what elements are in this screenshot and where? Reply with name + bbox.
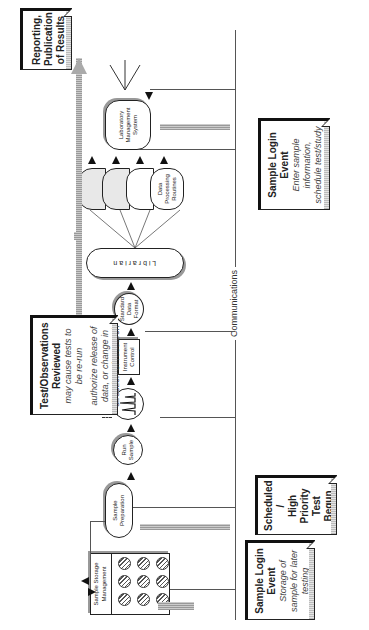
event-title-line: Test [311, 481, 323, 531]
processing-routine-1: Data Processing Routines [150, 168, 184, 210]
vial-icon [156, 557, 169, 570]
arrow-to-format-icon [127, 328, 135, 336]
vial-icon [156, 575, 169, 588]
event-title-line: / [275, 481, 287, 531]
arrow-bus-to-lims-icon [145, 92, 153, 100]
bus-drop-processing [130, 149, 235, 150]
event-title-line: Scheduled [263, 481, 275, 531]
librarian-label: L i b r a r i a n [114, 260, 157, 267]
arrow-down-storage-icon [88, 588, 96, 596]
arrow-to-lims-icon [160, 156, 168, 164]
output-arrows-icon [105, 55, 145, 95]
event-arrow-lims [160, 124, 230, 130]
instrument-control-label: Instrument Control [122, 340, 136, 374]
vial-icon [137, 593, 150, 606]
arrow-to-lims-icon [112, 156, 120, 164]
arrow-to-lims-icon [136, 156, 144, 164]
bus-drop-lims [150, 89, 235, 90]
sample-prep-node: Sample Preparation [105, 483, 133, 538]
sample-storage-label: Sample Storage Management [91, 554, 112, 614]
review-to-lims-grey [76, 58, 82, 318]
page-fold-icon [321, 118, 330, 127]
run-sample-node: Run Sample [113, 435, 143, 465]
bus-drop-prep [130, 507, 235, 508]
event-reporting: Reporting, Publication of Results [20, 8, 72, 70]
event-tests-reviewed: Test/Observations Reviewed may cause tes… [30, 315, 118, 415]
event-sample-login-storage: Sample Login Event Storage of sample for… [245, 540, 315, 620]
page-fold-icon [328, 475, 337, 484]
vial-icon [118, 593, 131, 606]
event-line: authorize release of data, or change in … [89, 323, 122, 409]
data-format-label: Standard Data Format [119, 294, 140, 324]
run-sample-label: Run Sample [121, 436, 135, 464]
processing-label: Data Processing Routines [157, 169, 178, 209]
vial-icon [118, 575, 131, 588]
event-arrow-storage [158, 602, 194, 610]
arrow-to-librarian-icon [127, 282, 135, 290]
sample-prep-label: Sample Preparation [112, 484, 126, 537]
data-format-node: Standard Data Format [114, 293, 144, 325]
event-arrow-prep [140, 524, 230, 530]
librarian-node: L i b r a r i a n [86, 248, 184, 278]
lims-node: Laboratory Management System [105, 100, 151, 150]
librarian-fan-lines [80, 208, 190, 248]
bus-drop-instrument [145, 331, 235, 332]
event-scheduled-high-priority: Scheduled / High Priority Test Begun [255, 475, 337, 535]
lims-label: Laboratory Management System [118, 101, 139, 149]
vial-icon [137, 575, 150, 588]
event-subtitle: Enter sample information, schedule test/… [291, 125, 324, 205]
grey-arrowhead-icon [71, 58, 87, 74]
prep-to-storage-line-h [90, 522, 91, 592]
arrow-prep-to-run-icon [127, 472, 135, 480]
arrow-storage-to-prep-icon [81, 577, 89, 585]
bus-drop-run [160, 417, 235, 418]
arrow-to-lims-icon [88, 156, 96, 164]
vial-icon [137, 557, 150, 570]
arrow-run-to-chromatogram-icon [127, 424, 135, 432]
review-dashed-link [102, 416, 112, 418]
event-title: Sample Login Event [254, 547, 278, 615]
event-title-line: Priority [299, 481, 311, 531]
event-subtitle: Storage of sample for later testing [278, 547, 311, 615]
page-fold-icon [306, 540, 315, 549]
event-title-line: High [287, 481, 299, 531]
event-sample-login-enter: Sample Login Event Enter sample informat… [258, 118, 330, 210]
page-fold-icon [109, 315, 118, 324]
prep-to-storage-line [90, 521, 105, 522]
diagram-canvas: Communications Sample Storage Management… [0, 0, 369, 630]
vial-icon [118, 557, 131, 570]
page-fold-icon [63, 8, 72, 17]
event-line: may cause tests to be re-run [63, 323, 85, 409]
event-title: Reporting, Publication of Results [31, 14, 67, 66]
event-title: Sample Login Event [267, 125, 291, 205]
communications-label: Communications [229, 267, 239, 340]
arrow-to-instrument-icon [127, 377, 135, 385]
event-title: Test/Observations Reviewed [39, 323, 63, 409]
